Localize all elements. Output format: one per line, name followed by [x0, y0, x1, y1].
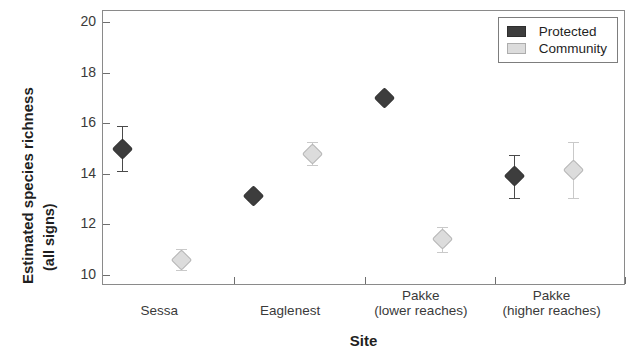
species-richness-chart: Estimated species richness (all signs) 2… — [0, 0, 632, 357]
error-bar-cap — [437, 227, 448, 228]
y-tick-mark — [103, 224, 110, 225]
legend-swatch-protected — [507, 26, 526, 37]
data-point — [306, 11, 319, 286]
y-axis-title: Estimated species richness (all signs) — [0, 0, 40, 300]
legend-label: Community — [539, 41, 607, 56]
data-point — [247, 11, 260, 286]
y-tick-mark — [103, 275, 110, 276]
y-tick-mark — [103, 22, 110, 23]
marker-community — [432, 229, 453, 250]
y-tick-mark — [103, 123, 110, 124]
error-bar-cap — [307, 165, 318, 166]
x-tick-label-line2: (lower reaches) — [374, 303, 467, 318]
x-axis-title: Site — [102, 332, 625, 349]
y-tick-label: 10 — [62, 266, 96, 282]
error-bar-cap — [568, 198, 579, 199]
y-axis-title-line1: Estimated species richness — [19, 87, 36, 284]
error-bar-cap — [117, 126, 128, 127]
y-tick-label: 12 — [62, 215, 96, 231]
marker-protected — [374, 87, 395, 108]
error-bar-cap — [568, 142, 579, 143]
data-point — [175, 11, 188, 286]
marker-community — [302, 143, 323, 164]
x-tick-label: Sessa — [141, 303, 179, 318]
x-tick-mark — [234, 277, 235, 284]
legend-item: Protected — [507, 23, 607, 40]
plot-area: ProtectedCommunity — [102, 10, 625, 285]
y-tick-label: 14 — [62, 165, 96, 181]
x-tick-mark — [495, 277, 496, 284]
data-point — [378, 11, 391, 286]
marker-community — [563, 159, 584, 180]
marker-community — [171, 249, 192, 270]
x-tick-mark — [365, 277, 366, 284]
x-tick-label-line1: Pakke — [402, 288, 440, 303]
marker-protected — [243, 186, 264, 207]
legend-swatch-community — [507, 43, 526, 54]
x-tick-label-line1: Pakke — [533, 288, 571, 303]
x-tick-label-line2: (higher reaches) — [502, 303, 600, 318]
error-bar-cap — [509, 155, 520, 156]
x-tick-label: Eaglenest — [260, 303, 320, 318]
x-tick-label-line1: Sessa — [141, 303, 179, 318]
x-tick-label: Pakke(higher reaches) — [502, 288, 600, 318]
x-axis-tick-labels: SessaEaglenestPakke(lower reaches)Pakke(… — [102, 288, 632, 328]
marker-protected — [504, 166, 525, 187]
data-point — [436, 11, 449, 286]
x-tick-label-line1: Eaglenest — [260, 303, 320, 318]
legend-item: Community — [507, 40, 607, 57]
y-tick-label: 20 — [62, 13, 96, 29]
chart-legend: ProtectedCommunity — [498, 17, 618, 63]
x-tick-label: Pakke(lower reaches) — [374, 288, 467, 318]
y-axis-title-line2: (all signs) — [41, 203, 57, 271]
error-bar-cap — [437, 252, 448, 253]
error-bar-cap — [117, 171, 128, 172]
error-bar-cap — [509, 198, 520, 199]
data-point — [116, 11, 129, 286]
y-tick-label: 16 — [62, 114, 96, 130]
x-tick-mark — [625, 277, 626, 284]
y-tick-mark — [103, 73, 110, 74]
y-axis-tick-labels: 201816141210 — [60, 0, 96, 300]
y-tick-mark — [103, 174, 110, 175]
marker-protected — [112, 138, 133, 159]
y-tick-label: 18 — [62, 64, 96, 80]
legend-label: Protected — [539, 24, 597, 39]
